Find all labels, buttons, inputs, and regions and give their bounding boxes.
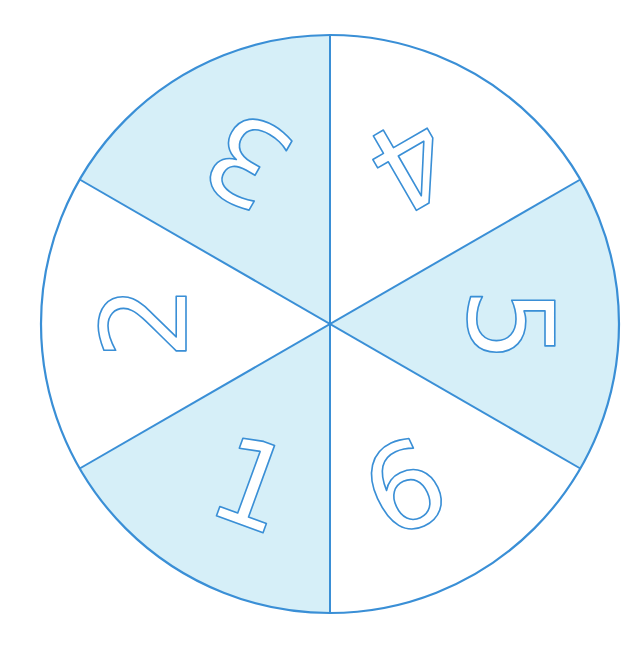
digit-2: 2 xyxy=(76,284,214,359)
spinner-diagram: 1 2 3 4 5 6 xyxy=(0,0,644,649)
digit-5: 5 xyxy=(441,287,579,362)
